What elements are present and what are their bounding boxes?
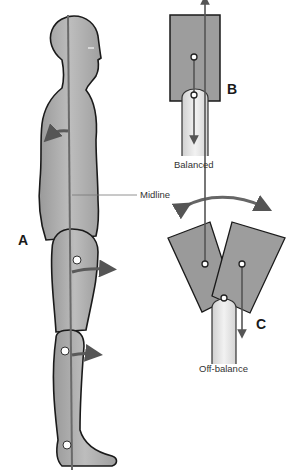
knee-moment-arrow-icon	[72, 353, 94, 355]
panel-a-figure	[39, 15, 137, 470]
panel-label-a: A	[18, 232, 28, 248]
biomechanics-diagram	[0, 0, 296, 476]
panel-label-b: B	[227, 81, 237, 97]
human-thigh	[51, 229, 98, 332]
center-of-mass-b	[191, 54, 197, 60]
center-of-mass-c-left	[202, 261, 208, 267]
panel-b-balanced	[170, 15, 220, 156]
joint-center-hip	[73, 256, 81, 264]
center-of-mass-c-right	[239, 261, 245, 267]
caption-balanced: Balanced	[174, 159, 214, 170]
support-b	[182, 89, 208, 156]
caption-off-balance: Off-balance	[199, 363, 248, 374]
joint-center-ankle	[63, 441, 71, 449]
rocking-arrow-icon	[184, 197, 264, 207]
support-c	[212, 299, 236, 364]
panel-label-c: C	[256, 316, 266, 332]
midline-label: Midline	[140, 189, 170, 200]
joint-center-knee	[61, 347, 69, 355]
pivot-c	[221, 295, 227, 301]
pivot-b	[191, 92, 197, 98]
